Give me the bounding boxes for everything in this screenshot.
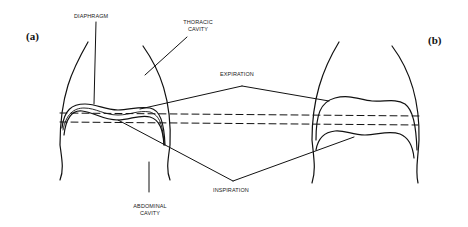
leader-inspiration-right <box>233 137 354 181</box>
label-abdominal-cavity: ABDOMINAL CAVITY <box>128 203 172 216</box>
leader-diaphragm <box>94 22 96 104</box>
label-abdominal-line1: ABDOMINAL <box>128 203 172 210</box>
panel-label-a: (a) <box>26 30 39 42</box>
leader-thoracic <box>145 37 187 75</box>
ribcage-right-a <box>143 46 170 180</box>
diaphragm-inspiration-b <box>316 131 414 158</box>
leader-expiration-left <box>140 86 242 109</box>
diaphragm-expiration-b <box>316 97 417 150</box>
ribcage-left-b <box>312 42 339 183</box>
label-thoracic-cavity: THORACIC CAVITY <box>178 19 218 32</box>
label-inspiration: INSPIRATION <box>213 187 249 194</box>
ribcage-right-b <box>392 46 419 183</box>
respiration-diagram: (a) (b) DIAPHRAGM THORACIC CAVITY EXPIRA… <box>0 0 468 227</box>
leader-inspiration-left <box>118 120 233 181</box>
label-thoracic-line2: CAVITY <box>178 26 218 33</box>
label-thoracic-line1: THORACIC <box>178 19 218 26</box>
diaphragm-inspiration-a <box>64 111 164 145</box>
panel-label-b: (b) <box>428 34 441 46</box>
dashed-level-lower <box>60 122 418 125</box>
diaphragm-expiration-a <box>62 104 165 145</box>
label-expiration: EXPIRATION <box>220 71 254 78</box>
label-abdominal-line2: CAVITY <box>128 210 172 217</box>
leader-expiration-right <box>242 86 329 101</box>
label-diaphragm: DIAPHRAGM <box>74 13 108 20</box>
